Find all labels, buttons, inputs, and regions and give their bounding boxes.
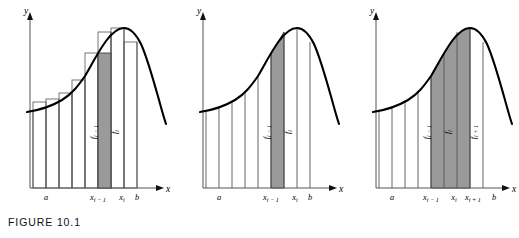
- f-label-i-minus-1: fi − 1: [262, 125, 272, 139]
- tick-label-b: b: [308, 193, 312, 202]
- tick-label-x-i: xi: [450, 193, 457, 203]
- tick-label-x-i: xi: [291, 193, 298, 203]
- y-axis-label: y: [196, 6, 202, 16]
- tick-label-a: a: [390, 193, 394, 202]
- f-label-i-minus-1: fi − 1: [422, 125, 432, 139]
- y-axis: [200, 12, 206, 188]
- f-label-i-plus-1: fi + 1: [469, 125, 479, 139]
- f-label-i-minus-1: fi − 1: [89, 125, 99, 139]
- f-label-i: fi: [110, 130, 120, 134]
- y-axis: [27, 12, 33, 188]
- x-axis-label: x: [511, 184, 517, 194]
- partition-lines: [206, 28, 310, 188]
- f-label-i: fi: [283, 130, 293, 134]
- function-curve: [27, 28, 166, 124]
- x-axis: [203, 185, 337, 191]
- tick-label-b: b: [492, 193, 496, 202]
- figure-panels-container: fi − 1 fi y x a xi − 1 xi b (a): [0, 0, 519, 205]
- shaded-trapezoid: [271, 32, 284, 188]
- panel-c-simpsons-rule: fi − 1 fi fi + 1 y x a xi − 1 xi xi + 1: [346, 0, 519, 205]
- panel-a-rectangle-rule: fi − 1 fi y x a xi − 1 xi b (a): [0, 0, 173, 205]
- tick-label-a: a: [217, 193, 221, 202]
- figure-caption: FIGURE 10.1: [8, 216, 81, 228]
- partition-lines: [33, 28, 137, 188]
- tick-label-x-i-plus-1: xi + 1: [464, 193, 481, 203]
- tick-label-x-i: xi: [118, 193, 125, 203]
- x-axis-label: x: [165, 184, 171, 194]
- y-axis-label: y: [369, 6, 375, 16]
- tick-label-b: b: [135, 193, 139, 202]
- tick-label-x-i-minus-1: xi − 1: [422, 193, 439, 203]
- tick-label-x-i-minus-1: xi − 1: [262, 193, 279, 203]
- panel-b-trapezoidal-rule: fi − 1 fi y x a xi − 1 xi b (b): [173, 0, 346, 205]
- y-axis-label: y: [23, 6, 29, 16]
- shaded-parabolic-region: [431, 28, 470, 188]
- y-axis: [373, 12, 379, 188]
- tick-label-x-i-minus-1: xi − 1: [89, 193, 106, 203]
- function-curve: [200, 28, 339, 124]
- tick-label-a: a: [44, 193, 48, 202]
- shaded-rectangle: [98, 53, 111, 188]
- x-axis-label: x: [338, 184, 344, 194]
